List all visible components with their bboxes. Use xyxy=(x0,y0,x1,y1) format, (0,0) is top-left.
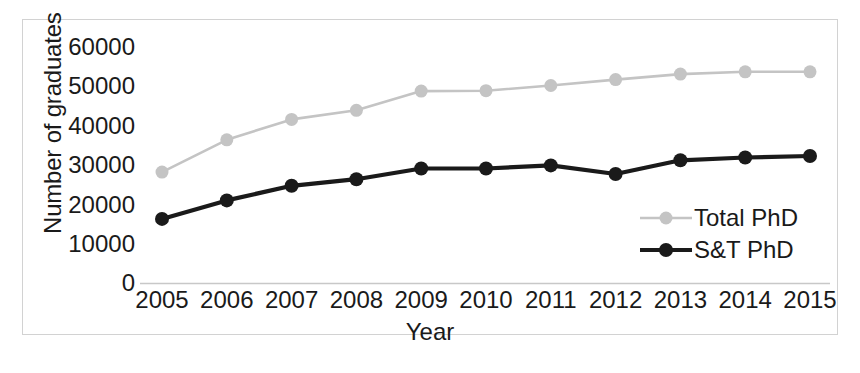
legend-swatch-st-phd xyxy=(640,241,692,259)
x-tick-2009: 2009 xyxy=(394,288,447,312)
x-tick-2007: 2007 xyxy=(265,288,318,312)
x-tick-2013: 2013 xyxy=(654,288,707,312)
data-point xyxy=(673,153,687,167)
x-tick-2014: 2014 xyxy=(718,288,771,312)
data-point xyxy=(415,85,428,98)
data-point xyxy=(739,65,752,78)
data-point xyxy=(480,84,493,97)
legend-item-st-phd: S&T PhD xyxy=(640,234,840,266)
data-point xyxy=(738,151,752,165)
data-point xyxy=(220,193,234,207)
data-point xyxy=(414,162,428,176)
data-point xyxy=(349,172,363,186)
legend-swatch-total-phd xyxy=(640,209,692,227)
x-tick-2010: 2010 xyxy=(459,288,512,312)
x-tick-2012: 2012 xyxy=(589,288,642,312)
x-axis-title: Year xyxy=(0,318,860,346)
data-point xyxy=(350,104,363,117)
data-point xyxy=(609,167,623,181)
x-tick-2005: 2005 xyxy=(135,288,188,312)
legend-marker-st-phd xyxy=(659,243,673,257)
chart-figure: 60000 50000 40000 30000 20000 10000 0 Nu… xyxy=(0,0,860,373)
legend-marker-total-phd xyxy=(660,212,673,225)
data-point xyxy=(220,133,233,146)
legend-label-total-phd: Total PhD xyxy=(692,204,798,232)
x-tick-2011: 2011 xyxy=(525,288,577,312)
data-point xyxy=(674,68,687,81)
data-point xyxy=(285,179,299,193)
x-tick-2015: 2015 xyxy=(783,288,836,312)
x-tick-2006: 2006 xyxy=(200,288,253,312)
data-point xyxy=(803,149,817,163)
legend-label-st-phd: S&T PhD xyxy=(692,236,794,264)
data-point xyxy=(544,158,558,172)
data-point xyxy=(609,73,622,86)
data-point xyxy=(155,212,169,226)
data-point xyxy=(544,79,557,92)
data-point xyxy=(156,166,169,179)
data-point xyxy=(285,113,298,126)
x-tick-2008: 2008 xyxy=(330,288,383,312)
chart-legend: Total PhD S&T PhD xyxy=(640,202,840,266)
legend-item-total-phd: Total PhD xyxy=(640,202,840,234)
data-point xyxy=(479,162,493,176)
data-point xyxy=(804,65,817,78)
